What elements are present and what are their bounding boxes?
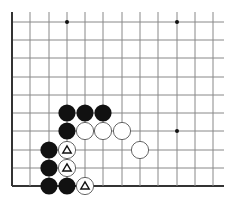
white-stone: [131, 141, 148, 158]
black-stone: [76, 104, 93, 121]
black-stone: [40, 141, 57, 158]
white-stone: [58, 159, 75, 176]
white-stone: [94, 122, 111, 139]
black-stone: [58, 177, 75, 194]
black-stone: [58, 122, 75, 139]
black-stone: [58, 104, 75, 121]
grid-lines: [12, 12, 224, 186]
star-point: [175, 20, 179, 24]
black-stone: [94, 104, 111, 121]
star-point: [65, 20, 69, 24]
black-stone: [40, 159, 57, 176]
white-stone: [58, 141, 75, 158]
white-stone: [76, 122, 93, 139]
go-board: [0, 0, 230, 201]
star-point: [175, 129, 179, 133]
black-stone: [40, 177, 57, 194]
white-stone: [76, 177, 93, 194]
white-stone: [113, 122, 130, 139]
